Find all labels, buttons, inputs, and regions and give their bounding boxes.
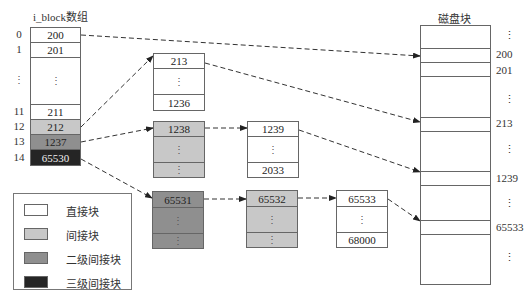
block-entry: 1238: [153, 121, 205, 137]
legend-swatch-double-indirect: [24, 252, 48, 264]
iblock-cell: 211: [30, 104, 81, 120]
block-entry-ellipsis: ⋮: [246, 232, 298, 248]
block-entry: 213: [153, 53, 205, 69]
iblock-cell: 201: [30, 42, 81, 58]
block-entry-ellipsis: ⋮: [246, 206, 298, 233]
block-entry: 2033: [247, 162, 299, 178]
disk-label-ellipsis: ⋮: [504, 144, 515, 155]
disk-divider: [420, 171, 491, 172]
block-entry-ellipsis: ⋮: [152, 207, 204, 234]
iblock-cell-double-indirect: 1237: [30, 134, 81, 150]
disk-label: 200: [496, 48, 513, 60]
block-entry: 65531: [152, 191, 204, 208]
iblock-index: 12: [11, 120, 27, 132]
legend-swatch-indirect: [24, 228, 48, 240]
legend-swatch-direct: [24, 204, 48, 216]
block-entry-ellipsis: ⋮: [153, 68, 205, 95]
disk-divider: [420, 185, 491, 186]
block-entry-ellipsis: ⋮: [153, 162, 205, 178]
iblock-title: i_block数组: [33, 8, 88, 24]
iblock-index: 0: [11, 28, 27, 40]
disk-label-ellipsis: ⋮: [504, 198, 515, 209]
disk-divider: [420, 76, 491, 77]
disk-label: 201: [496, 64, 513, 76]
disk-divider: [420, 220, 491, 221]
disk-divider: [420, 48, 491, 49]
iblock-cell: 200: [30, 27, 81, 43]
block-entry: 1236: [153, 94, 205, 111]
legend-label: 间接块: [66, 227, 99, 243]
iblock-cell-triple-indirect: 65530: [30, 149, 81, 166]
block-entry-ellipsis: ⋮: [152, 233, 204, 249]
disk-label: 65533: [496, 221, 524, 233]
block-entry-ellipsis: ⋮: [153, 136, 205, 163]
block-entry: 68000: [336, 232, 388, 248]
disk-label-ellipsis: ⋮: [504, 30, 515, 41]
iblock-index: 13: [11, 135, 27, 147]
legend-swatch-triple-indirect: [24, 276, 48, 288]
block-entry: 1239: [247, 121, 299, 137]
disk-label: 213: [496, 117, 513, 129]
legend-label: 三级间接块: [66, 275, 121, 291]
legend-label: 直接块: [66, 203, 99, 219]
disk-divider: [420, 117, 491, 118]
iblock-cell-ellipsis: ⋮: [30, 57, 81, 105]
block-entry: 65532: [246, 190, 298, 207]
disk-label-ellipsis: ⋮: [504, 252, 515, 263]
block-entry: 65533: [336, 190, 388, 207]
iblock-index-ellipsis: ⋮: [11, 75, 27, 85]
block-entry-ellipsis: ⋮: [247, 136, 299, 163]
disk-label: 1239: [496, 172, 518, 184]
legend: 直接块 间接块 二级间接块 三级间接块: [13, 193, 132, 290]
disk-divider: [420, 131, 491, 132]
block-entry-ellipsis: ⋮: [336, 206, 388, 233]
disk-title: 磁盘块: [438, 10, 471, 26]
disk-divider: [420, 234, 491, 235]
iblock-index: 14: [11, 151, 27, 163]
legend-label: 二级间接块: [66, 251, 121, 267]
iblock-index: 11: [11, 105, 27, 117]
disk-divider: [420, 62, 491, 63]
iblock-index: 1: [11, 43, 27, 55]
disk-label-ellipsis: ⋮: [504, 94, 515, 105]
disk-frame: [420, 25, 491, 285]
iblock-cell-indirect: 212: [30, 119, 81, 135]
